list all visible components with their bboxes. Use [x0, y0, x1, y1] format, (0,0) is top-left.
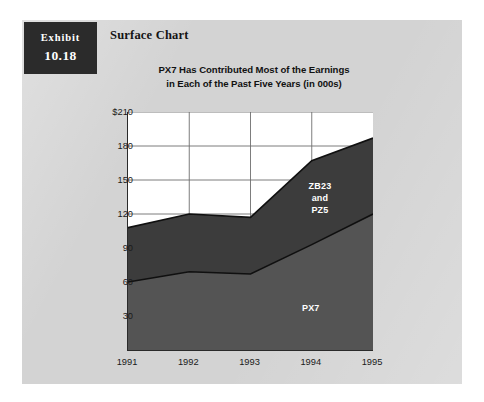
surface-chart: 306090120150180$210 19911992199319941995…: [108, 106, 400, 374]
y-axis-tick-label: 90: [87, 243, 133, 253]
series-label-line-3: PZ5: [309, 204, 332, 216]
y-axis-tick-90: 90: [87, 248, 133, 258]
x-axis-tick-1994: 1994: [300, 357, 321, 367]
y-axis-tick-label: 60: [87, 277, 133, 287]
y-axis-tick-60: 60: [87, 282, 133, 292]
series-label-px7: PX7: [302, 302, 320, 314]
y-axis-tick-180: 180: [87, 146, 133, 156]
exhibit-tab: Exhibit 10.18: [24, 22, 97, 74]
chart-title: PX7 Has Contributed Most of the Earnings…: [110, 63, 398, 90]
y-axis-tick-label: 30: [87, 311, 133, 321]
y-axis-tick-label: 120: [87, 209, 133, 219]
y-axis-tick-120: 120: [87, 214, 133, 224]
plot-area: [127, 112, 373, 351]
x-axis-tick-1993: 1993: [239, 357, 260, 367]
series-label-line-1: ZB23: [309, 180, 332, 192]
y-axis-tick-30: 30: [87, 316, 133, 326]
card-heading: Surface Chart: [110, 28, 189, 43]
y-axis-tick-150: 150: [87, 180, 133, 190]
series-label-zb23-pz5: ZB23andPZ5: [309, 180, 332, 216]
exhibit-label: Exhibit: [41, 32, 81, 44]
y-axis-tick-210: $210: [87, 112, 133, 122]
screenshot-root: Exhibit 10.18 Surface Chart PX7 Has Cont…: [0, 0, 484, 402]
x-axis-tick-1995: 1995: [362, 357, 383, 367]
chart-title-line-1: PX7 Has Contributed Most of the Earnings: [110, 63, 398, 77]
x-axis-tick-1992: 1992: [178, 357, 199, 367]
x-axis-tick-1991: 1991: [117, 357, 138, 367]
exhibit-number: 10.18: [44, 48, 76, 64]
y-axis-tick-label: 180: [87, 141, 133, 151]
series-label-line-2: and: [309, 192, 332, 204]
y-axis-tick-label: 150: [87, 175, 133, 185]
y-axis-tick-label: $210: [87, 107, 133, 117]
chart-title-line-2: in Each of the Past Five Years (in 000s): [110, 77, 398, 91]
plot-svg: [128, 112, 373, 350]
